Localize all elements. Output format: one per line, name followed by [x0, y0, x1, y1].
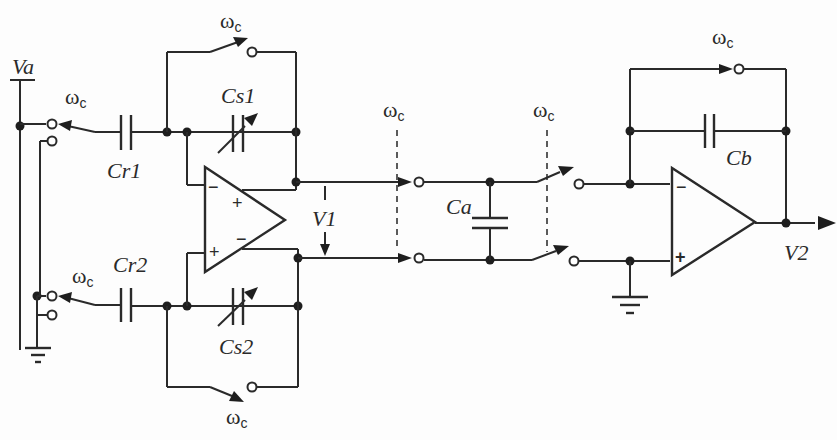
omega-c-label: ωc [72, 263, 93, 290]
cs2-label: Cs2 [219, 334, 253, 359]
opamp1-output-plus-sign: + [232, 193, 243, 213]
omega-c-label: ωc [65, 84, 86, 111]
opamp1-noninverting-sign: + [209, 242, 220, 262]
switch-right-top [537, 166, 670, 189]
opamp1-inverting-sign: − [208, 177, 219, 197]
cr2-label: Cr2 [113, 252, 147, 277]
opamp2-noninverting-sign: + [675, 247, 686, 267]
ground-left-icon [25, 348, 51, 362]
opamp2-inverting-sign: − [676, 177, 687, 197]
cr1-label: Cr1 [107, 158, 141, 183]
switch-top-left [20, 120, 120, 297]
ca-label: Ca [446, 194, 472, 219]
v2-label: V2 [784, 240, 808, 265]
cs1-label: Cs1 [221, 83, 255, 108]
cb-label: Cb [726, 145, 752, 170]
schematic-svg: Va ωc ωc Cr1 Cr2 [0, 0, 837, 440]
switch-right-bottom [532, 245, 670, 266]
capacitor-cr2 [121, 288, 298, 322]
omega-c-label: ωc [533, 97, 554, 124]
differential-opamp [187, 132, 298, 306]
v1-label: V1 [312, 206, 336, 231]
omega-c-label: ωc [383, 97, 404, 124]
omega-c-label: ωc [220, 8, 241, 35]
omega-c-label: ωc [712, 24, 733, 51]
capacitor-ca [424, 178, 537, 265]
switch-bottom-left [37, 292, 120, 349]
capacitor-cr1 [121, 115, 296, 150]
opamp1-output-minus-sign: − [236, 229, 247, 249]
circuit-diagram: Va ωc ωc Cr1 Cr2 [0, 0, 837, 440]
omega-c-label: ωc [226, 404, 247, 431]
va-label: Va [12, 54, 34, 79]
ground-right-icon [612, 297, 648, 313]
